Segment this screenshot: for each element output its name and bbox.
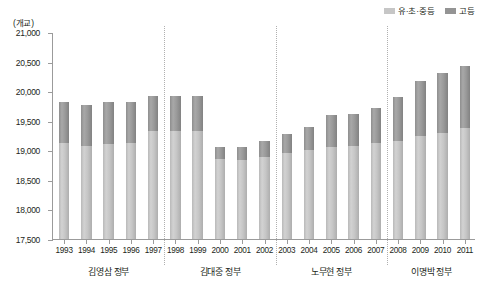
bar-segment-elementary <box>192 131 203 239</box>
chart-container: 유·초·중등 고등 (개교) 21,00020,50020,00019,5001… <box>0 0 483 300</box>
x-axis-tick <box>443 240 444 244</box>
bar-segment-higher <box>393 97 404 141</box>
x-axis-tick-label: 2009 <box>412 246 429 255</box>
x-axis-tick-label: 1995 <box>100 246 117 255</box>
bar-segment-higher <box>192 96 203 131</box>
bar-segment-higher <box>259 141 270 157</box>
x-axis-tick-label: 2008 <box>390 246 407 255</box>
bar-segment-higher <box>282 134 293 154</box>
y-axis-tick-label: 18,000 <box>0 206 40 215</box>
x-axis-tick <box>309 240 310 244</box>
bar-segment-elementary <box>415 136 426 239</box>
x-axis-tick-label: 2010 <box>434 246 451 255</box>
y-axis-tick-label: 20,500 <box>0 59 40 68</box>
legend-label-higher: 고등 <box>459 7 475 16</box>
y-axis-tick <box>48 210 53 211</box>
x-axis-tick-label: 2003 <box>278 246 295 255</box>
x-axis-tick <box>175 240 176 244</box>
x-axis-tick <box>109 240 110 244</box>
bar-segment-higher <box>237 147 248 161</box>
y-axis-tick <box>48 63 53 64</box>
x-axis-tick <box>153 240 154 244</box>
x-axis-tick <box>465 240 466 244</box>
x-axis-tick <box>287 240 288 244</box>
x-axis-tick-label: 1998 <box>167 246 184 255</box>
x-axis-tick-label: 1997 <box>145 246 162 255</box>
y-axis-tick <box>48 122 53 123</box>
legend-swatch-higher <box>445 8 456 14</box>
bar-segment-higher <box>148 96 159 131</box>
bar-group <box>259 141 270 239</box>
legend-label-elementary: 유·초·중등 <box>398 7 434 16</box>
x-axis-tick <box>242 240 243 244</box>
bar-segment-elementary <box>170 131 181 239</box>
y-axis-tick-label: 17,500 <box>0 236 40 245</box>
bar-group <box>237 147 248 239</box>
bar-segment-higher <box>348 114 359 145</box>
bar-segment-elementary <box>460 128 471 239</box>
x-axis-tick <box>265 240 266 244</box>
x-axis-tick-label: 2011 <box>457 246 473 255</box>
period-group-label: 이명박 정부 <box>411 265 452 278</box>
period-group-label: 김영삼 정부 <box>88 265 129 278</box>
legend-item-elementary: 유·초·중등 <box>384 7 434 16</box>
y-axis-tick-label: 18,500 <box>0 177 40 186</box>
x-axis-tick-label: 1993 <box>56 246 73 255</box>
period-divider <box>387 26 388 265</box>
y-axis-tick-label: 19,000 <box>0 147 40 156</box>
x-axis-tick <box>64 240 65 244</box>
bar-group <box>215 147 226 239</box>
bar-segment-elementary <box>437 133 448 239</box>
y-axis-tick-label: 20,000 <box>0 88 40 97</box>
bar-segment-elementary <box>326 147 337 239</box>
bar-group <box>460 66 471 239</box>
bar-segment-elementary <box>237 160 248 239</box>
period-group-label: 김대중 정부 <box>200 265 241 278</box>
bar-segment-higher <box>371 108 382 143</box>
x-axis-tick <box>198 240 199 244</box>
bar-segment-elementary <box>348 146 359 239</box>
x-axis-tick-label: 1994 <box>78 246 95 255</box>
bar-group <box>126 102 137 239</box>
bar-segment-higher <box>437 73 448 133</box>
bar-segment-higher <box>415 81 426 136</box>
x-axis-tick-label: 1999 <box>189 246 206 255</box>
bar-segment-elementary <box>304 150 315 239</box>
x-axis-tick <box>331 240 332 244</box>
y-axis-tick <box>48 92 53 93</box>
bar-group <box>192 96 203 239</box>
bar-group <box>437 73 448 239</box>
x-axis-tick-label: 2004 <box>301 246 318 255</box>
period-divider <box>164 26 165 265</box>
bar-segment-elementary <box>259 157 270 239</box>
bar-segment-higher <box>170 96 181 131</box>
x-axis-tick-label: 2006 <box>345 246 362 255</box>
x-axis-tick <box>131 240 132 244</box>
bar-segment-higher <box>126 102 137 142</box>
x-axis-tick <box>376 240 377 244</box>
bar-group <box>59 102 70 239</box>
y-axis-unit-label: (개교) <box>13 16 34 28</box>
y-axis-tick <box>48 33 53 34</box>
bar-group <box>371 108 382 239</box>
bar-segment-higher <box>460 66 471 129</box>
x-axis-tick <box>354 240 355 244</box>
bar-group <box>282 134 293 239</box>
x-axis-tick-label: 2005 <box>323 246 340 255</box>
chart-legend: 유·초·중등 고등 <box>384 7 475 16</box>
legend-swatch-elementary <box>384 8 395 14</box>
bar-segment-higher <box>81 105 92 146</box>
bar-segment-higher <box>304 127 315 150</box>
x-axis-tick-label: 2002 <box>256 246 273 255</box>
period-group-label: 노무현 정부 <box>311 265 352 278</box>
bar-segment-higher <box>326 115 337 148</box>
bar-segment-elementary <box>393 141 404 239</box>
x-axis-tick <box>398 240 399 244</box>
x-axis-tick <box>220 240 221 244</box>
bar-group <box>393 97 404 239</box>
bar-segment-elementary <box>103 144 114 239</box>
legend-item-higher: 고등 <box>445 7 475 16</box>
x-axis-tick-label: 2000 <box>211 246 228 255</box>
bar-segment-elementary <box>371 143 382 239</box>
bar-segment-higher <box>215 147 226 159</box>
